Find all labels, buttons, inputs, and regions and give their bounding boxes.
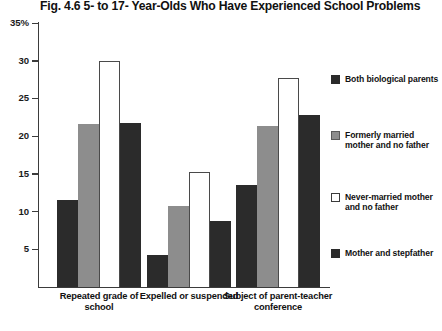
bar (120, 123, 141, 287)
legend-item[interactable]: Mother and stepfather (331, 248, 442, 258)
bar (189, 172, 210, 287)
bar (257, 126, 278, 287)
chart-figure: Fig. 4.6 5- to 17- Year-Olds Who Have Ex… (0, 0, 442, 331)
x-axis-category-label: Subject of parent-teacher conference (223, 291, 333, 313)
bar (78, 124, 99, 287)
legend-swatch-icon (331, 131, 340, 140)
y-axis-tick-label: 5 (0, 243, 29, 254)
bar (299, 115, 320, 287)
legend-swatch-icon (331, 193, 340, 202)
legend-label: Mother and stepfather (345, 248, 433, 258)
bar (147, 255, 168, 287)
legend-item[interactable]: Never-married mother and no father (331, 192, 442, 212)
plot-area (38, 23, 328, 287)
legend-swatch-icon (331, 249, 340, 258)
y-axis-tick-label: 20 (0, 130, 29, 141)
bar (57, 200, 78, 287)
bar-group (147, 23, 231, 287)
bar-group (236, 23, 320, 287)
bar (99, 61, 120, 287)
y-axis-tick-label: 25 (0, 92, 29, 103)
bar (168, 206, 189, 287)
legend-item[interactable]: Both biological parents (331, 74, 442, 84)
legend-label: Both biological parents (345, 74, 438, 84)
bar-group (57, 23, 141, 287)
y-axis-tick-label: 30 (0, 55, 29, 66)
y-axis-tick-label: 15 (0, 168, 29, 179)
chart-title: Fig. 4.6 5- to 17- Year-Olds Who Have Ex… (40, 0, 442, 13)
y-axis-tick-label: 35% (0, 17, 29, 28)
bar (278, 78, 299, 287)
legend-label: Formerly married mother and no father (345, 130, 442, 150)
legend-swatch-icon (331, 75, 340, 84)
bar (210, 221, 231, 287)
legend-label: Never-married mother and no father (345, 192, 442, 212)
bar (236, 185, 257, 287)
legend-item[interactable]: Formerly married mother and no father (331, 130, 442, 150)
y-axis-tick-label: 10 (0, 206, 29, 217)
